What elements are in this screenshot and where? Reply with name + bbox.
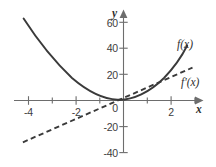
x-tick-label-2: 2 bbox=[166, 107, 176, 118]
curve-label-f: f(x) bbox=[177, 39, 193, 51]
x-axis-label: x bbox=[196, 104, 202, 116]
y-axis-arrow-icon bbox=[120, 10, 128, 19]
x-tick-label--2: -2 bbox=[69, 107, 84, 118]
curve-label-f-prime: f'(x) bbox=[181, 77, 199, 89]
curve-f-of-x bbox=[24, 19, 188, 100]
y-tick-label-20: 20 bbox=[104, 70, 118, 81]
y-axis-label: y bbox=[112, 8, 117, 20]
x-tick-label--4: -4 bbox=[21, 107, 36, 118]
y-tick-label-0: 0 bbox=[110, 103, 118, 114]
y-tick-label-40: 40 bbox=[104, 43, 118, 54]
y-tick-label--20: -20 bbox=[97, 122, 118, 133]
y-tick-label--40: -40 bbox=[97, 148, 118, 159]
function-graph-figure: 60 40 20 0 -20 -40 -4 -2 2 y x f(x) f'(x… bbox=[0, 0, 216, 167]
